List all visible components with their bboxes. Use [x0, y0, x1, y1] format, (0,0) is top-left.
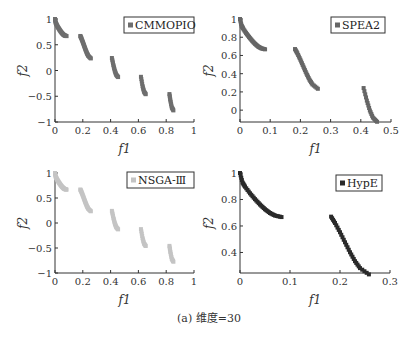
- x-tick-label: 0: [52, 125, 58, 136]
- x-axis-label: f1: [308, 293, 321, 307]
- figure-caption: (a) 维度=30: [177, 311, 241, 325]
- y-tick-label: −0.5: [28, 91, 52, 102]
- data-point: [263, 47, 267, 51]
- x-axis-label: f1: [117, 293, 130, 307]
- x-tick-label: 0: [237, 125, 243, 136]
- x-tick-label: 0.2: [332, 276, 348, 287]
- x-tick-label: 1: [191, 125, 197, 136]
- y-tick-label: 0.5: [36, 193, 52, 204]
- data-point: [171, 108, 175, 112]
- y-tick-label: 0.4: [221, 247, 237, 258]
- subplot-4: 00.10.20.30.40.60.81f1f2HypE: [202, 168, 398, 307]
- y-tick-label: −0.5: [28, 243, 52, 254]
- subplot-2: 00.10.20.30.40.500.20.40.60.81f1f2SPEA2: [202, 14, 399, 156]
- x-tick-label: 0.6: [130, 125, 146, 136]
- data-point: [89, 56, 93, 60]
- y-tick-label: 1: [46, 14, 52, 25]
- y-tick-label: 1: [231, 168, 237, 179]
- y-tick-label: 0.4: [221, 69, 237, 80]
- x-tick-label: 0.4: [353, 125, 369, 136]
- x-tick-label: 0.6: [130, 276, 146, 287]
- legend-label: SPEA2: [342, 19, 380, 32]
- data-point: [171, 260, 175, 264]
- y-tick-label: 0: [231, 105, 237, 116]
- y-tick-label: 0.8: [221, 194, 237, 205]
- x-tick-label: 0.3: [382, 276, 398, 287]
- legend-label: HypE: [347, 177, 378, 190]
- subplot-1: 00.20.40.60.81−1−0.500.51f1f2CMMOPIO: [16, 14, 197, 156]
- y-tick-label: 0.8: [221, 32, 237, 43]
- data-point: [144, 92, 148, 96]
- y-tick-label: −1: [37, 268, 52, 279]
- y-axis-label: f2: [202, 217, 216, 230]
- x-tick-label: 0.4: [103, 125, 119, 136]
- x-tick-label: 0.8: [158, 125, 174, 136]
- legend-label: CMMOPIO: [135, 19, 196, 32]
- x-tick-label: 0.2: [75, 276, 91, 287]
- data-point: [316, 87, 320, 91]
- x-tick-label: 0: [237, 276, 243, 287]
- y-axis-label: f2: [16, 64, 30, 77]
- legend-marker: [335, 23, 340, 28]
- y-tick-label: 1: [46, 168, 52, 179]
- x-axis-label: f1: [117, 142, 130, 156]
- data-point: [65, 188, 69, 192]
- x-tick-label: 0.1: [282, 276, 298, 287]
- y-axis-label: f2: [16, 217, 30, 230]
- data-point: [144, 244, 148, 248]
- y-tick-label: 0.6: [221, 50, 237, 61]
- legend: CMMOPIO: [124, 17, 196, 33]
- figure: 00.20.40.60.81−1−0.500.51f1f2CMMOPIO00.1…: [0, 0, 418, 340]
- x-tick-label: 0.2: [75, 125, 91, 136]
- data-point: [116, 75, 120, 79]
- legend: NSGA-Ⅲ: [127, 172, 194, 188]
- y-tick-label: 0.5: [36, 40, 52, 51]
- y-tick-label: 0: [46, 66, 52, 77]
- legend-marker: [131, 178, 136, 183]
- x-tick-label: 0.2: [292, 125, 308, 136]
- x-tick-label: 0.8: [158, 276, 174, 287]
- data-point: [89, 209, 93, 213]
- data-point: [280, 215, 284, 219]
- data-point: [367, 272, 371, 276]
- legend-label: NSGA-Ⅲ: [138, 174, 186, 187]
- x-tick-label: 1: [191, 276, 197, 287]
- x-tick-label: 0.3: [323, 125, 339, 136]
- x-axis-label: f1: [308, 142, 321, 156]
- y-tick-label: 0.2: [221, 87, 237, 98]
- y-tick-label: −1: [37, 117, 52, 128]
- legend-marker: [128, 23, 133, 28]
- legend: SPEA2: [331, 17, 385, 33]
- y-tick-label: 0: [46, 218, 52, 229]
- legend: HypE: [336, 175, 382, 191]
- x-tick-label: 0.1: [262, 125, 278, 136]
- x-tick-label: 0.4: [103, 276, 119, 287]
- data-point: [375, 120, 379, 124]
- y-axis-label: f2: [202, 64, 216, 77]
- subplot-3: 00.20.40.60.81−1−0.500.51f1f2NSGA-Ⅲ: [16, 168, 197, 307]
- legend-marker: [340, 181, 345, 186]
- x-tick-label: 0.5: [383, 125, 399, 136]
- y-tick-label: 1: [231, 14, 237, 25]
- x-tick-label: 0: [52, 276, 58, 287]
- data-point: [116, 227, 120, 231]
- y-tick-label: 0.6: [221, 221, 237, 232]
- data-point: [65, 34, 69, 38]
